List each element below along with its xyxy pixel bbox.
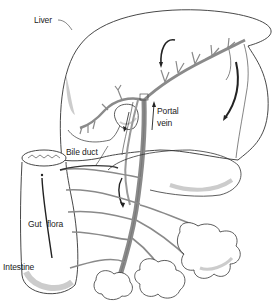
diagram-canvas: Liver Portal vein Bile duct Gut flora In… <box>0 0 277 303</box>
label-portal-vein-line2: vein <box>157 118 172 128</box>
label-flora: flora <box>47 219 63 229</box>
label-intestine: Intestine <box>3 262 34 272</box>
label-liver: Liver <box>34 15 52 25</box>
label-portal-vein-line1: Portal <box>157 106 179 116</box>
liver-outline <box>60 10 271 161</box>
label-bile-duct: Bile duct <box>66 147 98 157</box>
liver-intestine-illustration <box>0 0 277 303</box>
label-gut: Gut <box>28 219 41 229</box>
